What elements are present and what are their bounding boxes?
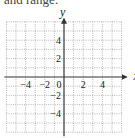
y-tick-label: −4 [50,108,61,119]
x-tick-label: 0 [57,79,62,90]
y-axis-label: y [59,5,66,19]
x-tick-label: −2 [39,79,50,90]
y-tick-label: −2 [50,90,61,101]
axes [4,19,126,136]
x-tick-label: 4 [100,79,105,90]
x-tick-label: −4 [20,79,31,90]
y-tick-label: 2 [56,53,61,64]
x-axis-label: x [133,69,135,83]
y-tick-label: 4 [56,35,61,46]
x-tick-label: 2 [81,79,86,90]
coordinate-grid-chart: xy−4−202442−2−4 [0,0,135,138]
